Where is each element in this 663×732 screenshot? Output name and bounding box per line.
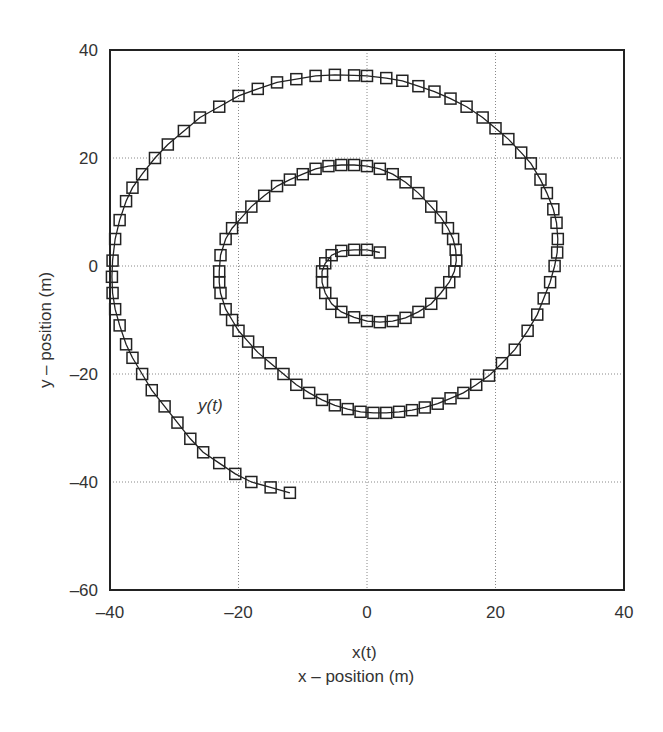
x-tick-label: 0 (362, 603, 371, 622)
spiral-trajectory-chart: –40–200204040200–20–40–60 (0, 0, 663, 732)
trajectory-series (106, 69, 563, 498)
axis-tick-labels: –40–200204040200–20–40–60 (70, 41, 634, 622)
y-tick-label: –60 (70, 581, 98, 600)
annotation-y-of-t: y(t) (198, 396, 223, 416)
x-tick-label: 40 (615, 603, 634, 622)
y-axis-label: y – position (m) (36, 260, 56, 400)
y-tick-label: 0 (89, 257, 98, 276)
x-tick-label: –40 (96, 603, 124, 622)
y-tick-label: 40 (79, 41, 98, 60)
grid-lines (110, 50, 624, 590)
trajectory-line (112, 75, 558, 493)
y-tick-label: –20 (70, 365, 98, 384)
y-tick-label: –40 (70, 473, 98, 492)
x-axis-label-top: x(t) (352, 643, 377, 663)
x-tick-label: 20 (486, 603, 505, 622)
x-axis-label: x – position (m) (298, 667, 414, 687)
x-tick-label: –20 (224, 603, 252, 622)
y-tick-label: 20 (79, 149, 98, 168)
